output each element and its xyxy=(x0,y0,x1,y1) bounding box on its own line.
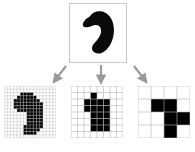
original-shape-panel xyxy=(69,3,127,63)
raster-cell-filled xyxy=(17,96,20,99)
raster-cell-filled xyxy=(33,119,36,122)
raster-cell-filled xyxy=(37,128,40,131)
raster-cell-filled xyxy=(84,106,91,113)
raster-cell-filled xyxy=(33,115,36,118)
raster-cell-filled xyxy=(27,112,30,115)
raster-cell-filled xyxy=(27,96,30,99)
raster-cell-filled xyxy=(40,109,43,112)
raster-cell-filled xyxy=(104,112,111,119)
raster-cell-filled xyxy=(33,122,36,125)
raster-cell-filled xyxy=(40,115,43,118)
raster-cell-filled xyxy=(24,106,27,109)
raster-cell-filled xyxy=(24,99,27,102)
raster-cell-filled xyxy=(27,102,30,105)
raster-cell-filled xyxy=(33,125,36,128)
arrow-to-8-container xyxy=(90,63,112,85)
arrow-to-16-icon xyxy=(49,63,71,85)
raster-cell-filled xyxy=(14,102,17,105)
raster-cell-filled xyxy=(20,96,23,99)
raster-cell-filled xyxy=(91,106,98,113)
raster-cell-filled xyxy=(20,102,23,105)
raster-panel-8x8 xyxy=(71,86,123,138)
raster-cell-filled xyxy=(97,106,104,113)
raster-cell-filled xyxy=(37,99,40,102)
arrow-to-8-icon xyxy=(90,63,112,85)
raster-cell-filled xyxy=(40,122,43,125)
raster-cell-filled xyxy=(164,112,177,125)
raster-panel-16x16 xyxy=(4,86,56,138)
raster-cell-filled xyxy=(24,102,27,105)
raster-cell-filled xyxy=(37,125,40,128)
raster-cell-filled xyxy=(37,119,40,122)
raster-4-canvas xyxy=(138,86,190,138)
raster-cell-filled xyxy=(27,128,30,131)
raster-cell-filled xyxy=(24,125,27,128)
raster-cell-filled xyxy=(27,122,30,125)
raster-cell-filled xyxy=(37,122,40,125)
raster-cell-filled xyxy=(17,99,20,102)
raster-cell-filled xyxy=(33,96,36,99)
raster-cell-filled xyxy=(27,106,30,109)
raster-cell-filled xyxy=(30,112,33,115)
raster-cell-filled xyxy=(104,106,111,113)
raster-cell-filled xyxy=(37,112,40,115)
raster-8-canvas xyxy=(71,86,123,138)
raster-cell-filled xyxy=(24,109,27,112)
raster-cell-filled xyxy=(37,106,40,109)
raster-cell-filled xyxy=(24,132,27,135)
raster-cell-filled xyxy=(84,99,91,106)
raster-cell-filled xyxy=(27,125,30,128)
raster-panel-4x4 xyxy=(138,86,190,138)
raster-cell-filled xyxy=(27,132,30,135)
raster-cell-filled xyxy=(30,99,33,102)
raster-cell-filled xyxy=(17,109,20,112)
raster-cell-filled xyxy=(33,128,36,131)
raster-cell-filled xyxy=(97,99,104,106)
raster-cell-filled xyxy=(24,128,27,131)
raster-cell-filled xyxy=(33,102,36,105)
raster-cell-filled xyxy=(30,109,33,112)
raster-cell-filled xyxy=(30,106,33,109)
raster-cell-filled xyxy=(30,115,33,118)
raster-cell-filled xyxy=(164,99,177,112)
raster-cell-filled xyxy=(33,132,36,135)
raster-cell-filled xyxy=(97,125,104,132)
raster-cell-filled xyxy=(37,102,40,105)
raster-cell-filled xyxy=(20,106,23,109)
raster-cell-filled xyxy=(30,119,33,122)
raster-cell-filled xyxy=(30,102,33,105)
raster-cell-filled xyxy=(91,99,98,106)
raster-cell-filled xyxy=(91,125,98,132)
raster-cell-filled xyxy=(97,119,104,126)
raster-cell-filled xyxy=(37,115,40,118)
raster-cell-filled xyxy=(40,125,43,128)
raster-cell-filled xyxy=(91,119,98,126)
raster-cell-filled xyxy=(20,109,23,112)
raster-cell-filled xyxy=(97,112,104,119)
raster-cell-filled xyxy=(14,106,17,109)
raster-cell-filled xyxy=(30,96,33,99)
raster-cell-filled xyxy=(30,122,33,125)
raster-cell-filled xyxy=(40,106,43,109)
raster-16-canvas xyxy=(4,86,56,138)
raster-cell-filled xyxy=(104,125,111,132)
raster-cell-filled xyxy=(91,93,98,100)
raster-cell-filled xyxy=(33,112,36,115)
original-shape-canvas xyxy=(70,4,126,62)
raster-cell-filled xyxy=(30,125,33,128)
raster-cell-filled xyxy=(177,112,190,125)
arrow-to-4-container xyxy=(130,63,152,85)
raster-cell-filled xyxy=(30,93,33,96)
raster-cell-filled xyxy=(30,132,33,135)
raster-cell-filled xyxy=(20,99,23,102)
raster-cell-filled xyxy=(164,125,177,138)
raster-cell-filled xyxy=(24,96,27,99)
raster-cell-filled xyxy=(91,112,98,119)
raster-cell-filled xyxy=(40,119,43,122)
raster-cell-filled xyxy=(151,99,164,112)
raster-cell-filled xyxy=(20,93,23,96)
raster-cell-filled xyxy=(27,115,30,118)
raster-cell-filled xyxy=(27,109,30,112)
raster-cell-filled xyxy=(37,109,40,112)
raster-cell-filled xyxy=(104,99,111,106)
